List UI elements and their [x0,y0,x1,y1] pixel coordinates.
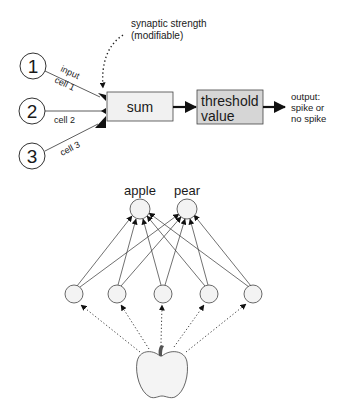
input-node-2 [108,285,126,303]
connection-1-apple [77,216,132,286]
stimulus-arrow-3 [161,305,162,343]
input-node-5 [244,285,262,303]
input-cell-2: 2 [19,98,45,124]
output-label-line3: no spike [291,113,326,124]
neuron-diagram: 1 2 3 input cell 1 cell 2 cell 3 synapti… [0,0,343,408]
input-cell-1-number: 1 [28,56,39,77]
output-node-pear-label: pear [174,183,201,198]
apple-stem-icon [159,345,164,356]
network-connections [77,213,251,287]
input-node-1 [65,285,83,303]
stimulus-dotted-arrows [81,304,246,352]
connection-2-pear [121,217,181,286]
output-node-apple-label: apple [124,183,156,198]
sum-box: sum [107,92,173,121]
input-node-4 [200,285,218,303]
input-cell-3: 3 [19,143,45,169]
input-cell-1: 1 [20,53,46,79]
synaptic-strength-modifiable-label: (modifiable) [131,30,183,41]
threshold-label-line1: threshold [201,93,259,109]
connection-4-apple [147,216,205,286]
threshold-label-line2: value [201,108,235,124]
sum-label: sum [127,99,153,115]
connection-5-apple [149,213,249,287]
stimulus-arrow-5 [186,304,246,352]
synapse-3-icon [95,116,106,128]
connection-2-apple [118,219,136,285]
output-node-pear [177,199,197,219]
synaptic-strength-label: synaptic strength [131,18,207,29]
synaptic-strength-dotted-arrow [103,35,123,88]
output-node-apple [130,199,150,219]
input-node-3 [154,285,172,303]
threshold-box: threshold value [197,90,263,124]
output-label-line2: spike or [291,102,324,113]
input-cell-2-number: 2 [27,101,38,122]
synapse-2-icon [101,108,106,114]
output-label-line1: output: [291,91,320,102]
stimulus-arrow-2 [121,305,149,349]
input-label-cell-2: cell 2 [54,115,75,125]
apple-body-icon [137,352,188,398]
stimulus-arrow-1 [81,305,140,352]
connection-5-pear [194,215,251,286]
apple-icon [137,345,188,398]
input-cell-3-number: 3 [27,146,38,167]
connection-3-pear [165,219,185,285]
